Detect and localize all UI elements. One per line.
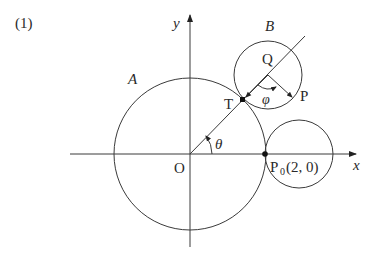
circle-a-label: A xyxy=(127,71,138,87)
point-t xyxy=(240,97,245,102)
p0-subscript: 0 xyxy=(280,166,285,177)
point-p0 xyxy=(262,151,268,157)
center-q-label: Q xyxy=(262,51,273,67)
theta-angle-arc xyxy=(206,136,212,154)
point-p-label: P xyxy=(300,88,308,104)
y-axis-label: y xyxy=(171,15,180,31)
circle-b-label: B xyxy=(265,18,274,34)
p0-label: P 0 (2, 0) xyxy=(270,159,319,177)
p0-coordinates: (2, 0) xyxy=(286,159,319,176)
origin-label: O xyxy=(174,160,185,176)
epicycloid-diagram: (1) y x O A B Q T P φ θ P 0 (2, 0) xyxy=(0,0,379,257)
x-axis-label: x xyxy=(352,157,360,173)
p0-name: P xyxy=(270,159,278,175)
vector-q-p xyxy=(268,75,292,97)
phi-angle-arc xyxy=(258,85,276,89)
problem-number: (1) xyxy=(15,15,33,32)
phi-label: φ xyxy=(262,92,270,107)
theta-label: θ xyxy=(215,136,223,152)
tangent-point-label: T xyxy=(224,96,233,112)
